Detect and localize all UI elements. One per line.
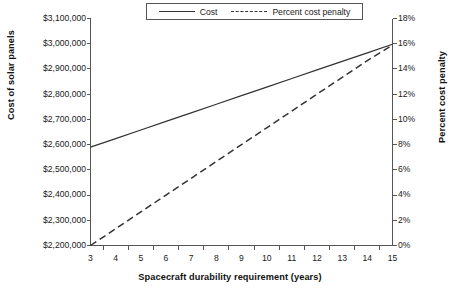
y-axis-right-tick-label: 8% — [398, 140, 410, 149]
y-axis-left-tick-label: $3,100,000 — [43, 14, 86, 23]
y-axis-right-tick-label: 10% — [398, 115, 415, 124]
y-axis-left-tick-label: $3,000,000 — [43, 39, 86, 48]
y-axis-left-tick-label: $2,600,000 — [43, 140, 86, 149]
y-axis-right-tick-label: 12% — [398, 90, 415, 99]
y-axis-left-tick-label: $2,900,000 — [43, 64, 86, 73]
data-series — [91, 44, 393, 245]
y-axis-left-tick-label: $2,400,000 — [43, 190, 86, 199]
chart-container: Cost of solar panels Percent cost penalt… — [0, 0, 459, 293]
y-axis-right-tick-label: 2% — [398, 216, 410, 225]
y-axis-left-tick-label: $2,300,000 — [43, 216, 86, 225]
y-axis-left-tick-label: $2,800,000 — [43, 90, 86, 99]
series-line-1 — [91, 44, 393, 147]
y-axis-right-tick-label: 14% — [398, 64, 415, 73]
y-axis-left-tick-label: $2,700,000 — [43, 115, 86, 124]
y-axis-left-tick-label: $2,500,000 — [43, 165, 86, 174]
tick-marks — [87, 19, 397, 250]
y-axis-right-tick-label: 18% — [398, 14, 415, 23]
series-line-2 — [91, 45, 393, 246]
y-axis-left-tick-label: $2,200,000 — [43, 241, 86, 250]
y-axis-right-tick-label: 0% — [398, 241, 410, 250]
y-axis-right-tick-label: 6% — [398, 165, 410, 174]
x-axis-tick-label: 15 — [378, 254, 408, 263]
y-axis-right-tick-label: 16% — [398, 39, 415, 48]
y-axis-right-tick-label: 4% — [398, 190, 410, 199]
